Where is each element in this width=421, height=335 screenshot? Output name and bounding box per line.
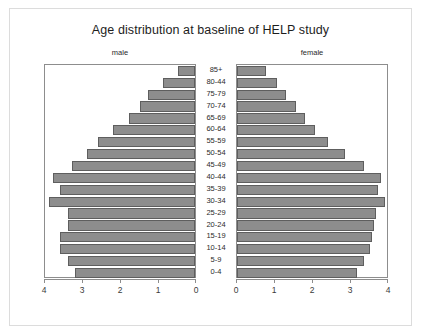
age-group-label: 85+	[196, 65, 236, 74]
bar-row	[45, 244, 195, 254]
bar-female-30-34	[237, 197, 385, 207]
bar-male-20-24	[68, 220, 195, 230]
plot-panel-male	[44, 64, 196, 278]
bar-row	[237, 244, 387, 254]
axis-tick	[195, 279, 196, 283]
population-pyramid-figure: Age distribution at baseline of HELP stu…	[0, 0, 421, 335]
axis-tick	[120, 279, 121, 283]
axis-tick-label: 0	[226, 285, 246, 295]
bar-row	[45, 197, 195, 207]
bar-female-35-39	[237, 185, 378, 195]
bar-male-40-44	[53, 173, 196, 183]
bar-female-85+	[237, 66, 266, 76]
bar-male-65-69	[129, 113, 196, 123]
bar-row	[237, 208, 387, 218]
bar-female-0-4	[237, 268, 357, 278]
age-group-label: 10-14	[196, 243, 236, 252]
age-group-label: 20-24	[196, 220, 236, 229]
age-group-label: 65-69	[196, 113, 236, 122]
bar-female-75-79	[237, 90, 286, 100]
bar-row	[45, 125, 195, 135]
axis-tick	[236, 279, 237, 283]
age-group-label: 40-44	[196, 172, 236, 181]
bar-row	[45, 137, 195, 147]
bar-male-30-34	[49, 197, 195, 207]
bar-row	[45, 173, 195, 183]
page-title: Age distribution at baseline of HELP stu…	[0, 23, 421, 37]
bar-row	[237, 232, 387, 242]
bar-row	[237, 66, 387, 76]
bar-female-50-54	[237, 149, 345, 159]
bar-row	[237, 173, 387, 183]
bar-female-80-44	[237, 78, 277, 88]
age-group-label: 15-19	[196, 231, 236, 240]
axis-tick-label: 4	[34, 285, 54, 295]
bar-row	[45, 185, 195, 195]
bar-male-35-39	[60, 185, 195, 195]
age-group-label: 50-54	[196, 148, 236, 157]
age-group-label: 25-29	[196, 208, 236, 217]
axis-tick	[274, 279, 275, 283]
axis-tick-label: 3	[72, 285, 92, 295]
bar-row	[45, 90, 195, 100]
bar-row	[45, 113, 195, 123]
age-group-label: 5-9	[196, 255, 236, 264]
x-axis-female: 01234	[236, 279, 388, 301]
bar-series-female	[237, 65, 387, 277]
bar-female-25-29	[237, 208, 376, 218]
bar-row	[237, 113, 387, 123]
bar-row	[45, 232, 195, 242]
bar-row	[237, 137, 387, 147]
bar-row	[45, 208, 195, 218]
panel-title-male: male	[44, 48, 196, 57]
age-group-label: 0-4	[196, 267, 236, 276]
axis-tick	[387, 279, 388, 283]
bar-row	[237, 78, 387, 88]
bar-row	[237, 90, 387, 100]
x-axis-male: 43210	[44, 279, 196, 301]
age-group-label: 60-64	[196, 124, 236, 133]
age-group-label: 35-39	[196, 184, 236, 193]
bar-male-50-54	[87, 149, 195, 159]
bar-female-45-49	[237, 161, 364, 171]
bar-female-60-64	[237, 125, 315, 135]
bar-male-80-44	[163, 78, 195, 88]
axis-tick-label: 4	[378, 285, 398, 295]
bar-row	[45, 78, 195, 88]
axis-tick	[44, 279, 45, 283]
bar-row	[237, 125, 387, 135]
bar-male-10-14	[60, 244, 195, 254]
bar-male-5-9	[68, 256, 195, 266]
axis-tick	[82, 279, 83, 283]
bar-row	[237, 149, 387, 159]
bar-series-male	[45, 65, 195, 277]
bar-row	[45, 66, 195, 76]
bar-male-0-4	[75, 268, 195, 278]
bar-row	[237, 220, 387, 230]
axis-tick	[350, 279, 351, 283]
bar-male-70-74	[140, 101, 195, 111]
axis-tick	[312, 279, 313, 283]
bar-male-60-64	[113, 125, 195, 135]
bar-male-85+	[178, 66, 195, 76]
bar-row	[45, 101, 195, 111]
axis-tick-label: 2	[110, 285, 130, 295]
age-group-label: 55-59	[196, 136, 236, 145]
age-group-label: 45-49	[196, 160, 236, 169]
bar-female-20-24	[237, 220, 374, 230]
bar-female-65-69	[237, 113, 305, 123]
age-group-label: 75-79	[196, 89, 236, 98]
axis-tick-label: 1	[148, 285, 168, 295]
bar-row	[45, 256, 195, 266]
bar-row	[45, 268, 195, 278]
axis-tick-label: 1	[264, 285, 284, 295]
bar-female-10-14	[237, 244, 370, 254]
bar-row	[237, 101, 387, 111]
bar-female-5-9	[237, 256, 364, 266]
axis-tick-label: 0	[186, 285, 206, 295]
bar-row	[237, 268, 387, 278]
age-group-axis: 85+80-4475-7970-7465-6960-6455-5950-5445…	[196, 64, 236, 278]
bar-row	[237, 161, 387, 171]
bar-male-75-79	[148, 90, 196, 100]
age-group-label: 30-34	[196, 196, 236, 205]
